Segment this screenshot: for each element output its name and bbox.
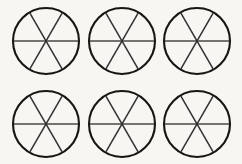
fraction-circle-4 [9, 87, 83, 161]
fraction-circle-2 [85, 4, 159, 78]
circle-graphic [160, 4, 234, 78]
circle-graphic [9, 87, 83, 161]
fraction-circle-1 [9, 4, 83, 78]
circle-graphic [9, 4, 83, 78]
fraction-circle-5 [85, 87, 159, 161]
fraction-circle-6 [160, 87, 234, 161]
circle-graphic [85, 4, 159, 78]
fraction-circle-3 [160, 4, 234, 78]
circle-graphic [85, 87, 159, 161]
circle-graphic [160, 87, 234, 161]
fraction-circles-figure [0, 0, 242, 164]
